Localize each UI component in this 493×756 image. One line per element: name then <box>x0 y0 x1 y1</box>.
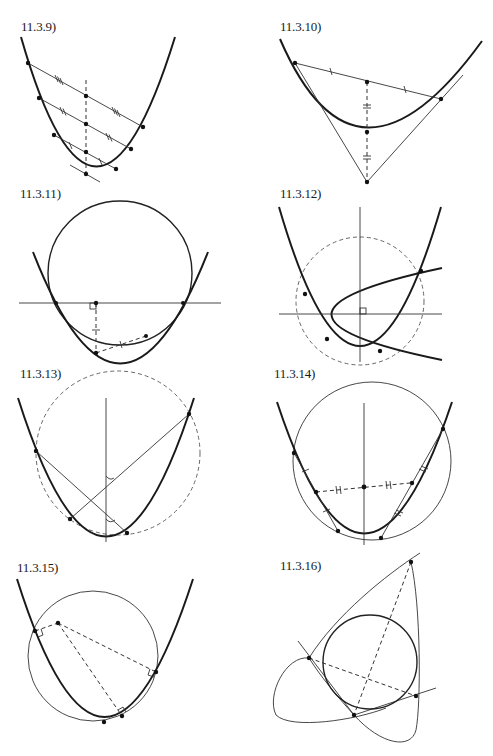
parabola-normals-diagram <box>0 555 246 756</box>
parabola-circle-midpoints-diagram <box>246 365 493 550</box>
figure-11-3-14: 11.3.14) <box>246 365 493 550</box>
figure-11-3-9: 11.3.9) <box>0 0 246 185</box>
parabola-tangents-chord-diagram <box>246 0 493 190</box>
parabola-equal-angle-chords-diagram <box>0 365 246 550</box>
two-parabolas-concyclic-diagram <box>246 185 493 365</box>
circle-parabola-intersection-diagram <box>0 185 246 365</box>
figure-11-3-15: 11.3.15) <box>0 555 246 756</box>
figure-11-3-12: 11.3.12) <box>246 185 493 365</box>
figure-11-3-10: 11.3.10) <box>246 0 493 190</box>
parabola-parallel-chords-diagram <box>0 0 246 185</box>
figure-11-3-11: 11.3.11) <box>0 185 246 365</box>
ellipse-inscribed-circle-diagram <box>246 545 493 756</box>
figure-11-3-13: 11.3.13) <box>0 365 246 550</box>
figure-11-3-16: 11.3.16) <box>246 545 493 756</box>
